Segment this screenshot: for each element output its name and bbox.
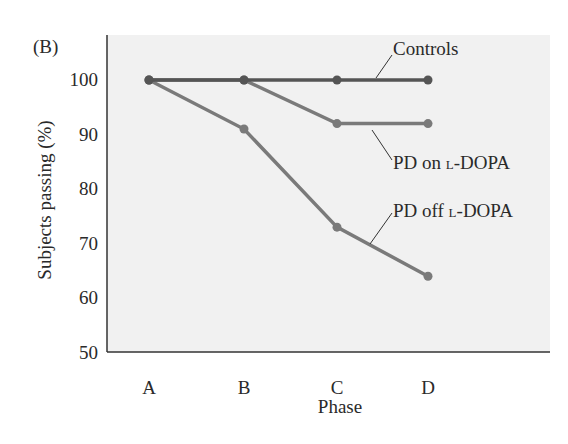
series-label-pd-on: PD on l-DOPA	[393, 152, 510, 174]
panel-label: (B)	[33, 36, 58, 58]
y-tick-label: 100	[70, 69, 99, 91]
chart-canvas	[0, 0, 568, 444]
series-label-controls: Controls	[393, 38, 458, 60]
x-tick-label: B	[238, 377, 251, 399]
data-point	[333, 223, 342, 232]
data-point	[333, 119, 342, 128]
data-point	[424, 272, 433, 281]
y-tick-label: 80	[79, 178, 98, 200]
y-tick-label: 70	[79, 233, 98, 255]
x-tick-label: D	[421, 377, 435, 399]
data-point	[424, 76, 433, 85]
y-tick-label: 60	[79, 287, 98, 309]
plot-background	[107, 35, 550, 352]
data-point	[145, 76, 154, 85]
data-point	[424, 119, 433, 128]
x-tick-label: A	[142, 377, 156, 399]
y-axis-label: Subjects passing (%)	[34, 120, 56, 279]
x-axis-label: Phase	[318, 396, 362, 418]
data-point	[333, 76, 342, 85]
x-tick-label: C	[331, 377, 344, 399]
y-tick-label: 50	[79, 342, 98, 364]
data-point	[240, 125, 249, 134]
y-tick-label: 90	[79, 124, 98, 146]
data-point	[240, 76, 249, 85]
series-label-pd-off: PD off l-DOPA	[393, 200, 513, 222]
